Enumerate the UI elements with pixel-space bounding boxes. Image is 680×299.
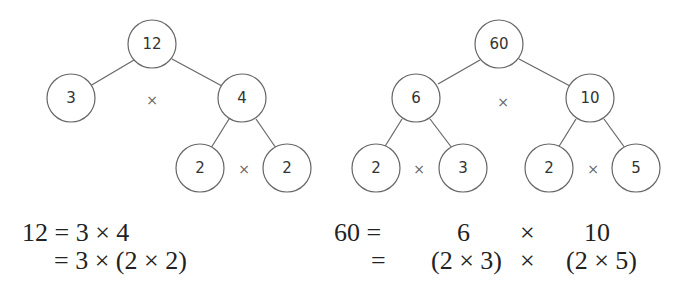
times-symbol: × [146,92,158,108]
svg-text:6: 6 [411,89,421,107]
edge [558,119,576,148]
tree-node-4: 4 [218,74,266,122]
svg-text:2: 2 [282,159,292,177]
svg-text:3: 3 [458,159,468,177]
tree-node-root-12: 12 [128,20,176,68]
times-symbol: × [238,161,250,177]
equation-right-line2-op: × [520,248,535,274]
edge [438,60,480,84]
edge [384,119,402,148]
equation-right-line1-op: × [520,220,535,246]
edge [519,59,570,86]
edge [604,119,625,148]
equation-right-line2-b: (2 × 5) [566,248,637,274]
equation-right-line2-a: (2 × 3) [431,248,502,274]
tree-node-3: 3 [47,74,95,122]
tree-node-2a: 2 [176,144,224,192]
edge [211,119,229,148]
tree-node-2b: 2 [263,144,311,192]
times-symbol: × [497,94,509,110]
equation-right-line1-b: 10 [584,220,610,246]
equation-right-line1-lhs: 60 = [334,220,381,246]
tree-node-2c: 2 [352,144,400,192]
tree-node-3b: 3 [439,144,487,192]
svg-text:5: 5 [631,159,641,177]
equation-right-line1-a: 6 [457,220,470,246]
times-symbol: × [587,161,599,177]
svg-text:2: 2 [544,159,554,177]
times-symbol: × [413,161,425,177]
equation-left-line2: = 3 × (2 × 2) [54,248,187,274]
tree-node-6: 6 [392,74,440,122]
edge [90,60,134,86]
svg-text:10: 10 [580,89,599,107]
tree-node-10: 10 [566,74,614,122]
svg-text:2: 2 [195,159,205,177]
tree-node-root-60: 60 [475,20,523,68]
edge [256,119,276,148]
svg-text:4: 4 [237,89,247,107]
equation-right-line2-lhs: = [371,248,386,274]
edge [430,119,452,148]
svg-text:60: 60 [489,35,508,53]
svg-text:3: 3 [66,89,76,107]
tree-node-5: 5 [612,144,660,192]
tree-node-2d: 2 [525,144,573,192]
svg-text:2: 2 [371,159,381,177]
edge [172,59,222,86]
equation-left-line1: 12 = 3 × 4 [22,220,129,246]
svg-text:12: 12 [142,35,161,53]
